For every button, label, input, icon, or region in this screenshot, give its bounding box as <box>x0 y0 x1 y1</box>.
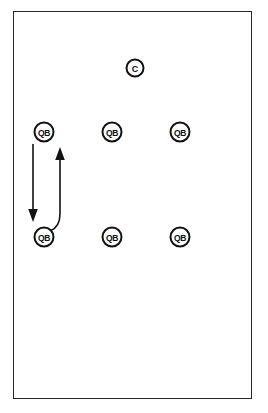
marker-qb-top-center[interactable]: QB <box>103 123 122 142</box>
marker-coach[interactable]: C <box>127 60 144 77</box>
qb-label: QB <box>38 128 50 138</box>
marker-qb-bottom-right[interactable]: QB <box>171 228 190 247</box>
qb-label: QB <box>106 233 118 243</box>
movement-path-return <box>50 147 65 231</box>
marker-qb-top-right[interactable]: QB <box>171 123 190 142</box>
return-curve-line <box>50 160 60 231</box>
movement-path-down <box>28 144 38 222</box>
qb-label: QB <box>106 128 118 138</box>
marker-qb-bottom-center[interactable]: QB <box>103 228 122 247</box>
qb-label: QB <box>174 233 186 243</box>
down-arrowhead-icon <box>28 209 38 222</box>
up-arrowhead-icon <box>55 147 65 160</box>
marker-qb-bottom-left[interactable]: QB <box>35 228 54 247</box>
qb-label: QB <box>38 233 50 243</box>
marker-qb-top-left[interactable]: QB <box>35 123 54 142</box>
diagram-canvas: C QB QB QB QB QB QB <box>0 0 268 413</box>
coach-label: C <box>132 64 139 74</box>
qb-label: QB <box>174 128 186 138</box>
drill-diagram-page: C QB QB QB QB QB QB <box>0 0 268 413</box>
